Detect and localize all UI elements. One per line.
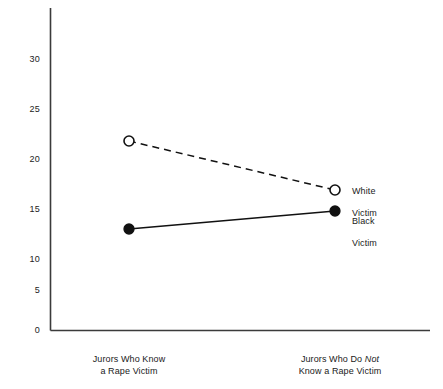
data-point-black-victim-not-know bbox=[330, 206, 340, 216]
y-tick-label-0: 0 bbox=[14, 325, 40, 335]
y-tick-label-15: 15 bbox=[14, 204, 40, 214]
legend-label-black-line2: Victim bbox=[352, 238, 377, 248]
y-tick-label-20: 20 bbox=[14, 154, 40, 164]
data-point-black-victim-know bbox=[124, 224, 134, 234]
x-category-label-not-know-line2: Know a Rape Victim bbox=[299, 366, 382, 376]
y-tick-label-5: 5 bbox=[14, 285, 40, 295]
legend-label-white-line1: White bbox=[352, 186, 376, 196]
x-category-label-know: Jurors Who Know a Rape Victim bbox=[64, 353, 194, 377]
y-tick-label-10: 10 bbox=[14, 254, 40, 264]
legend-entry-black-victim: Black Victim bbox=[352, 205, 377, 249]
x-category-label-not-know-emphasis: Not bbox=[365, 354, 379, 364]
x-category-label-not-know: Jurors Who Do Not Know a Rape Victim bbox=[270, 353, 410, 377]
x-category-label-know-line1: Jurors Who Know bbox=[93, 354, 166, 364]
series-line-black-victim bbox=[129, 211, 335, 229]
data-point-white-victim-know bbox=[124, 136, 134, 146]
y-tick-label-30: 30 bbox=[14, 54, 40, 64]
data-point-white-victim-not-know bbox=[330, 185, 340, 195]
line-chart: 30 25 20 15 10 5 0 Jurors Who Know a Rap… bbox=[0, 0, 443, 389]
y-tick-label-25: 25 bbox=[14, 104, 40, 114]
legend-label-black-line1: Black bbox=[352, 216, 375, 226]
x-category-label-not-know-line1a: Jurors Who Do bbox=[301, 354, 365, 364]
x-category-label-know-line2: a Rape Victim bbox=[100, 366, 157, 376]
series-line-white-victim bbox=[129, 141, 335, 190]
